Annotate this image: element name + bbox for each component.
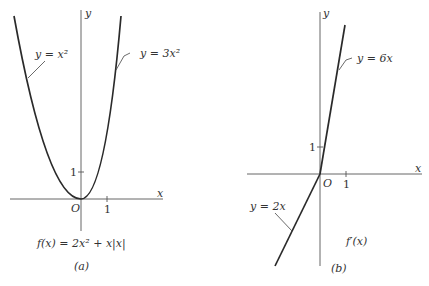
curve-label-3x-squared: y = 3x² — [139, 47, 180, 60]
panel-a: y x O 1 1 y = x² y = 3x² f(x) = 2x² + x|… — [10, 7, 180, 273]
x-axis-label-a: x — [157, 187, 164, 200]
formula-a: f(x) = 2x² + x|x| — [36, 237, 126, 251]
curve-3x-squared — [81, 16, 121, 199]
panel-b: y x O 1 1 y = 6x y = 2x f′(x) (b) — [247, 7, 422, 275]
leader-2x — [275, 213, 292, 231]
y-axis-label-b: y — [322, 7, 330, 20]
figure-canvas: y x O 1 1 y = x² y = 3x² f(x) = 2x² + x|… — [0, 0, 429, 286]
x-tick-label-a: 1 — [104, 203, 111, 216]
y-axis-label-a: y — [84, 7, 92, 20]
leader-6x — [339, 58, 352, 70]
x-axis-label-b: x — [415, 162, 422, 175]
caption-a: (a) — [74, 260, 89, 273]
curve-label-6x: y = 6x — [356, 52, 393, 65]
leader-x-squared — [28, 61, 45, 78]
y-tick-label-b: 1 — [309, 141, 316, 154]
leader-3x-squared — [116, 53, 130, 70]
formula-b: f′(x) — [345, 235, 367, 248]
line-6x — [320, 25, 345, 174]
y-tick-label-a: 1 — [70, 166, 77, 179]
origin-label-a: O — [71, 202, 80, 215]
caption-b: (b) — [331, 262, 347, 275]
origin-label-b: O — [323, 177, 332, 190]
x-tick-label-b: 1 — [343, 178, 350, 191]
curve-label-2x: y = 2x — [249, 200, 286, 213]
curve-label-x-squared: y = x² — [34, 48, 68, 61]
